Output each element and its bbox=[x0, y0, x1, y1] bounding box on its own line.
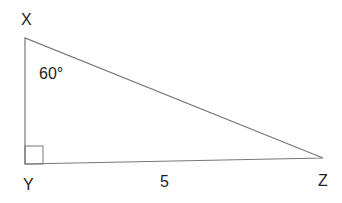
triangle-xyz bbox=[25, 38, 323, 164]
vertex-label-x: X bbox=[21, 11, 32, 28]
right-triangle-diagram: X Y Z 60° 5 bbox=[0, 0, 342, 203]
vertex-label-y: Y bbox=[23, 176, 34, 193]
right-angle-marker bbox=[25, 146, 43, 164]
vertex-label-z: Z bbox=[318, 172, 328, 189]
side-length-label-yz: 5 bbox=[160, 173, 169, 190]
angle-label-x: 60° bbox=[39, 65, 63, 82]
